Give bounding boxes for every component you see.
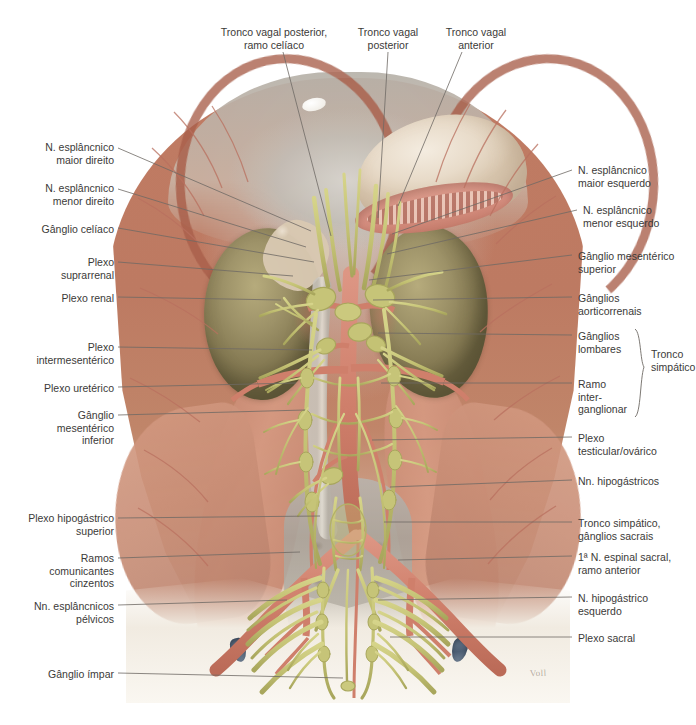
label-tronco-simpatico: Tronco simpático xyxy=(651,348,695,373)
label-ganglio-mesenterico-inferior: Gânglio mesentérico inferior xyxy=(18,409,114,447)
label-tronco-vagal-posterior-ramo-celiaco: Tronco vagal posterior, ramo celíaco xyxy=(207,26,341,51)
label-ramo-interganglionar: Ramo inter- ganglionar xyxy=(578,378,650,416)
anatomy-figure: Tronco vagal posterior, ramo celíacoTron… xyxy=(0,0,696,725)
label-tronco-vagal-posterior: Tronco vagal posterior xyxy=(347,26,429,51)
label-ganglios-lombares: Gânglios lombares xyxy=(578,330,650,355)
label-plexo-renal: Plexo renal xyxy=(18,292,114,305)
label-plexo-sacral: Plexo sacral xyxy=(578,632,694,645)
label-ganglio-mesenterico-superior: Gânglio mesentérico superior xyxy=(578,250,694,275)
artist-signature: Voll xyxy=(529,668,546,679)
label-n-esplancnico-menor-esquerdo: N. esplâncnico menor esquerdo xyxy=(583,204,693,229)
label-tronco-vagal-anterior: Tronco vagal anterior xyxy=(435,26,517,51)
label-ganglios-aorticorrenais: Gânglios aorticorrenais xyxy=(578,292,688,317)
label-tronco-simpatico-ganglios-sacrais: Tronco simpático, gânglios sacrais xyxy=(578,517,694,542)
label-plexo-suprarrenal: Plexo suprarrenal xyxy=(18,256,114,281)
label-n-esplancnico-maior-esquerdo: N. esplâncnico maior esquerdo xyxy=(578,164,688,189)
label-nn-esplancnicos-pelvicos: Nn. esplâncnicos pélvicos xyxy=(12,600,114,625)
label-ramos-comunicantes-cinzentos: Ramos comunicantes cinzentos xyxy=(18,552,114,590)
label-plexo-intermesenterico: Plexo intermesentérico xyxy=(18,341,114,366)
label-nn-hipogastricos: Nn. hipogástricos xyxy=(578,475,694,488)
label-n-esplancnico-menor-direito: N. esplâncnico menor direito xyxy=(18,182,114,207)
label-ganglio-celiaco: Gânglio celíaco xyxy=(18,223,114,236)
label-n-esplancnico-maior-direito: N. esplâncnico maior direito xyxy=(18,141,114,166)
label-n-hipogastrico-esquerdo: N. hipogástrico esquerdo xyxy=(578,592,694,617)
label-primeiro-n-espinal-sacral: 1ª N. espinal sacral, ramo anterior xyxy=(578,551,694,576)
label-plexo-ureterico: Plexo uretérico xyxy=(18,382,114,395)
anatomy-illustration xyxy=(108,78,588,703)
label-ganglio-impar: Gânglio ímpar xyxy=(18,668,114,681)
label-plexo-testicular-ovarico: Plexo testicular/ovárico xyxy=(578,432,694,457)
autonomic-nerve-plexus xyxy=(108,78,588,703)
label-plexo-hipogastrico-superior: Plexo hipogástrico superior xyxy=(8,512,114,537)
